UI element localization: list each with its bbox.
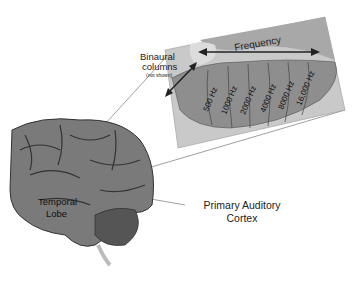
binaural-note: (not shown) xyxy=(146,73,172,79)
brainstem xyxy=(98,245,110,265)
primary-auditory-cortex-label-line2: Cortex xyxy=(190,213,294,225)
primary-auditory-cortex-label-line1: Primary Auditory xyxy=(190,200,294,212)
temporal-lobe-label-line2: Lobe xyxy=(46,209,67,219)
diagram-canvas: 500 Hz 1000 Hz 2000 Hz 4000 Hz 8000 Hz 1… xyxy=(0,0,358,281)
binaural-label-line2: columns xyxy=(142,62,177,72)
temporal-lobe-label-line1: Temporal xyxy=(38,197,77,207)
brain-illustration xyxy=(10,119,154,265)
cerebellum xyxy=(95,208,138,245)
cortex-panel: 500 Hz 1000 Hz 2000 Hz 4000 Hz 8000 Hz 1… xyxy=(165,17,345,148)
